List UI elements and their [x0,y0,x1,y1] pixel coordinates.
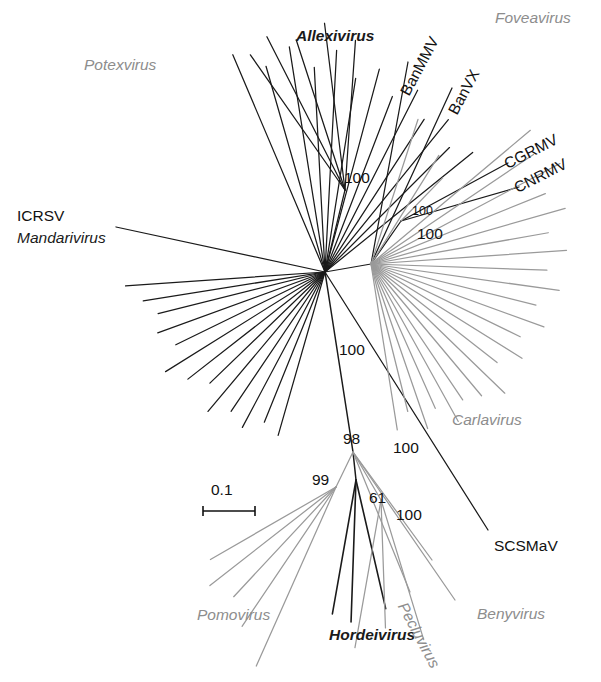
gray-branch-group [210,119,567,666]
tree-branch [371,264,463,400]
tree-branch [210,487,336,586]
tree-branch [256,487,336,666]
scale-bar-marks [203,506,255,516]
tree-branch [234,487,336,597]
tree-branch [371,264,428,429]
tree-branch [371,264,435,408]
tree-branch [371,130,530,264]
genus-label-benyvirus: Benyvirus [477,606,545,622]
bootstrap-value-foveavirus-inner: 100 [412,205,433,218]
bootstrap-value-hordeivirus: 61 [369,490,386,506]
phylogenetic-tree-figure: Potexvirus Allexivirus Foveavirus ICRSV … [0,0,601,682]
bootstrap-value-benyvirus: 100 [393,440,419,456]
tree-branch [296,40,345,190]
tree-branch [336,452,353,487]
bootstrap-value-foveavirus-outer: 100 [417,226,443,242]
genus-label-foveavirus: Foveavirus [495,10,571,26]
tree-branch [371,264,547,270]
tree-branch [325,272,353,452]
genus-label-carlavirus: Carlavirus [452,412,522,428]
genus-label-mandarivirus: Mandarivirus [17,230,106,246]
tree-branch [116,227,325,272]
tree-branch [371,264,505,393]
tree-branch [210,272,325,383]
species-label-icrsv: ICRSV [17,208,64,224]
genus-label-potexvirus: Potexvirus [84,57,156,73]
genus-label-pomovirus: Pomovirus [197,607,270,623]
tree-branch [242,272,325,427]
bootstrap-value-pecluvirus: 100 [396,507,422,523]
tree-branch [264,272,325,422]
scale-bar-label: 0.1 [211,482,233,498]
bootstrap-value-98: 98 [343,431,360,447]
tree-branch [381,500,385,628]
genus-label-hordeivirus: Hordeivirus [329,627,415,643]
tree-branch [231,272,325,411]
tree-branch [371,233,548,264]
bootstrap-value-pomovirus: 99 [312,472,329,488]
tree-branch [143,272,325,301]
genus-label-allexivirus: Allexivirus [296,28,374,44]
tree-canvas [0,0,601,682]
species-label-scsmav: SCSMaV [494,538,558,554]
tree-branch [188,272,325,379]
bootstrap-value-flexiviridae: 100 [339,342,365,358]
tree-branch [176,272,325,345]
bootstrap-value-allexivirus: 100 [344,170,370,186]
tree-branch [371,264,536,305]
tree-branch [345,40,355,190]
tree-branch [325,272,488,530]
